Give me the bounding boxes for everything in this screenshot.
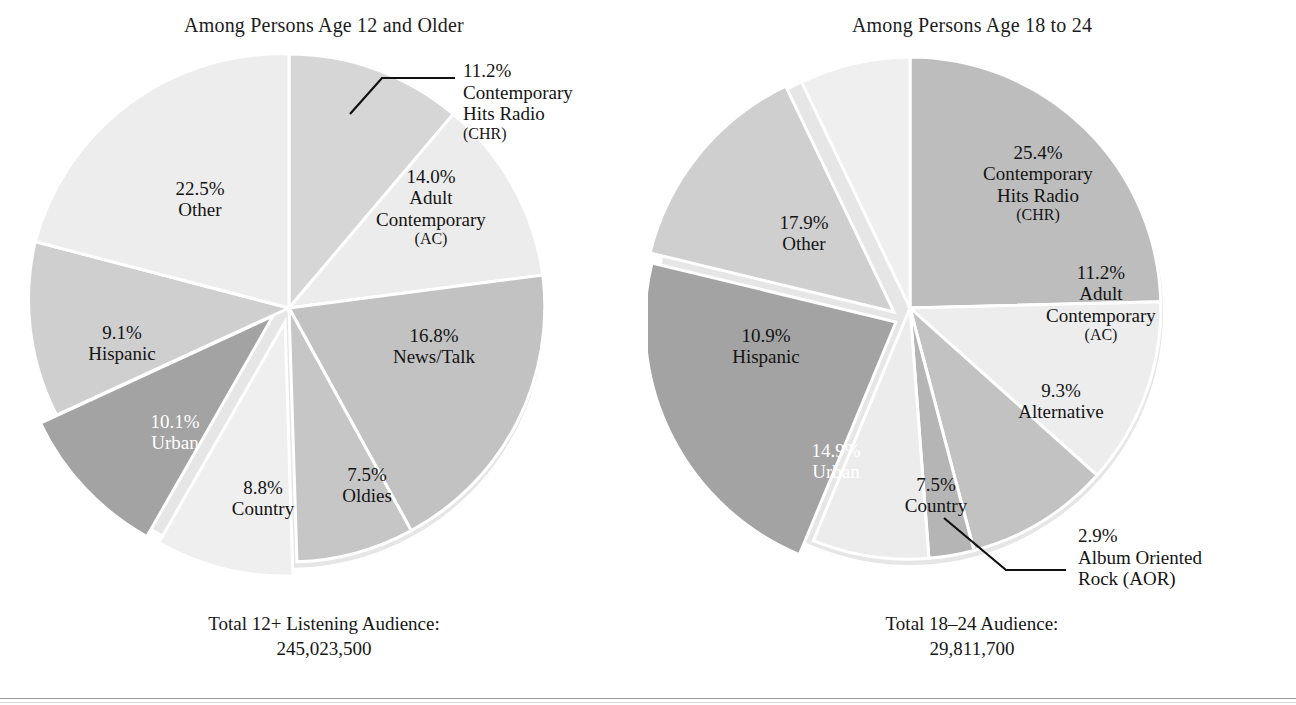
right-pie-svg [648,40,1296,600]
right-callout-aor: 2.9% Album Oriented Rock (AOR) [1078,525,1202,590]
right-panel-title: Among Persons Age 18 to 24 [648,14,1296,37]
left-total-block: Total 12+ Listening Audience: 245,023,50… [0,612,648,661]
footer-divider [0,698,1296,699]
pie-panel-18-24: Among Persons Age 18 to 24 [648,0,1296,705]
left-callout-chr: 11.2% Contemporary Hits Radio (CHR) [463,60,573,143]
pie-panel-12-plus: Among Persons Age 12 and Older [0,0,648,705]
left-callout-chr-line1: Contemporary [463,82,573,104]
right-callout-aor-line2: Rock (AOR) [1078,568,1202,590]
left-callout-chr-line3: (CHR) [463,125,573,143]
right-total-caption: Total 18–24 Audience: [886,613,1059,634]
left-total-value: 245,023,500 [0,637,648,662]
right-slice-chr[interactable] [910,57,1161,308]
right-callout-aor-pct: 2.9% [1078,525,1202,547]
right-total-block: Total 18–24 Audience: 29,811,700 [648,612,1296,661]
left-callout-chr-line2: Hits Radio [463,103,573,125]
right-total-value: 29,811,700 [648,637,1296,662]
figure-root: Among Persons Age 12 and Older [0,0,1296,705]
right-pie-stage [648,40,1296,600]
left-total-caption: Total 12+ Listening Audience: [208,613,440,634]
footer-divider-secondary [0,702,1296,703]
right-callout-aor-line1: Album Oriented [1078,547,1202,569]
left-callout-chr-pct: 11.2% [463,60,573,82]
left-panel-title: Among Persons Age 12 and Older [0,14,648,37]
